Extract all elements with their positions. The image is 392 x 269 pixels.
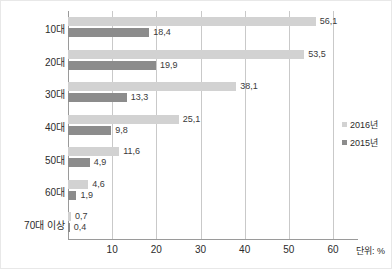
category-label-30대: 30대 [1,86,65,101]
x-tick-30: 30 [195,244,206,255]
gridline-60 [333,11,334,239]
x-axis-line [68,239,358,240]
bar-value-label: 1,9 [80,191,93,200]
bar-2016년-70대 이상 [68,212,71,221]
bar-value-label: 13,3 [131,93,149,102]
legend-label: 2015년 [350,136,378,149]
bar-2015년-50대 [68,158,90,167]
bar-group: 53,519,9 [68,44,333,77]
bar-chart: 56,118,453,519,938,113,325,19,811,64,94,… [0,0,392,269]
bar-2016년-30대 [68,82,236,91]
legend-item-2015년: 2015년 [342,136,390,149]
bar-2016년-10대 [68,17,316,26]
bar-group: 11,64,9 [68,141,333,174]
bar-value-label: 19,9 [160,61,178,70]
unit-note: 단위: % [356,244,385,257]
legend-label: 2016년 [350,118,378,131]
bar-group: 4,61,9 [68,174,333,207]
category-axis-labels: 10대20대30대40대50대60대70대 이상 [1,11,65,239]
plot-area: 56,118,453,519,938,113,325,19,811,64,94,… [68,11,333,239]
bar-2015년-10대 [68,28,149,37]
bar-2015년-30대 [68,93,127,102]
bar-2015년-60대 [68,191,76,200]
bar-value-label: 53,5 [308,50,326,59]
bar-2015년-40대 [68,126,111,135]
bar-value-label: 9,8 [115,126,128,135]
bar-value-label: 38,1 [240,82,258,91]
bar-value-label: 4,6 [92,180,105,189]
category-label-70대 이상: 70대 이상 [1,217,65,232]
legend-item-2016년: 2016년 [342,118,390,131]
chart-legend: 2016년2015년 [342,118,390,154]
bar-value-label: 18,4 [153,28,171,37]
bar-value-label: 0,7 [75,212,88,221]
bar-group: 25,19,8 [68,109,333,142]
bar-2016년-20대 [68,50,304,59]
bar-value-label: 25,1 [183,115,201,124]
bar-group: 0,70,4 [68,206,333,239]
bar-value-label: 4,9 [94,158,107,167]
category-label-10대: 10대 [1,21,65,36]
bar-value-label: 56,1 [320,17,338,26]
x-tick-10: 10 [107,244,118,255]
bar-2015년-70대 이상 [68,223,70,232]
x-tick-40: 40 [239,244,250,255]
x-tick-20: 20 [151,244,162,255]
legend-swatch-icon [342,140,347,145]
category-label-50대: 50대 [1,152,65,167]
bar-2016년-50대 [68,147,119,156]
category-label-60대: 60대 [1,184,65,199]
x-axis-tick-labels: 102030405060 [1,242,392,258]
bar-value-label: 11,6 [123,147,140,156]
bar-value-label: 0,4 [74,223,87,232]
bar-2015년-20대 [68,61,156,70]
x-tick-60: 60 [327,244,338,255]
bar-2016년-40대 [68,115,179,124]
x-tick-50: 50 [283,244,294,255]
bar-group: 38,113,3 [68,76,333,109]
bar-group: 56,118,4 [68,11,333,44]
category-label-40대: 40대 [1,119,65,134]
category-label-20대: 20대 [1,54,65,69]
legend-swatch-icon [342,122,347,127]
bar-2016년-60대 [68,180,88,189]
